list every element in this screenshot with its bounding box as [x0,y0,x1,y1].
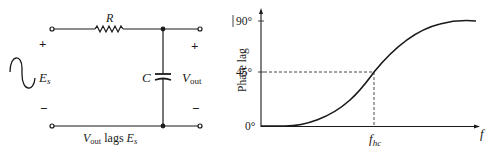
terminal-out-bottom [198,124,202,128]
terminal-out-top [198,27,202,31]
plus-left: + [39,36,46,51]
resistor-label: R [105,11,114,25]
phase-lag-curve [261,20,476,126]
vout-label: Vout [182,70,202,86]
terminal-in-top [50,27,54,31]
source-label: Es [38,70,51,86]
resistor-symbol [95,26,123,32]
phase-graph [233,8,480,129]
x-axis-label: f [480,126,486,141]
ytick-0-label: 0° [245,120,256,132]
capacitor-label: C [142,70,151,85]
ac-source-sine-icon [10,58,35,88]
xtick-fhc-label: fhc [369,131,381,148]
minus-left: − [40,101,47,116]
junction-dot-top [161,27,165,31]
minus-right: − [192,101,199,116]
ytick-90-label: 90° [236,15,253,27]
y-axis-arrow-icon [259,8,263,14]
y-axis-label: Phase lag [236,48,249,92]
terminal-in-bottom [50,124,54,128]
plus-right: + [191,38,198,53]
junction-dot-bottom [161,124,165,128]
figure: R + − + − Es C Vout Vout lags Es 90° 45°… [0,0,489,153]
circuit-caption: Vout lags Es [83,131,138,146]
